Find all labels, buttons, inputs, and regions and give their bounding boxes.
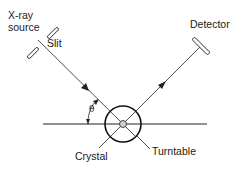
- theta-arrow-down-icon: [86, 119, 90, 124]
- turntable-label: Turntable: [152, 145, 196, 157]
- xray-source-label-line1: X-ray: [8, 9, 40, 21]
- crystal-icon: [120, 121, 127, 128]
- crystal-leader: [99, 137, 110, 148]
- crystal-label: Crystal: [75, 150, 108, 162]
- xray-source-label-line2: source: [8, 21, 40, 33]
- slit-label: Slit: [47, 37, 62, 49]
- turntable-leader: [137, 136, 150, 149]
- xray-source-label: X-ray source: [8, 9, 40, 33]
- detector-label: Detector: [190, 18, 230, 30]
- theta-label: θ: [89, 103, 94, 115]
